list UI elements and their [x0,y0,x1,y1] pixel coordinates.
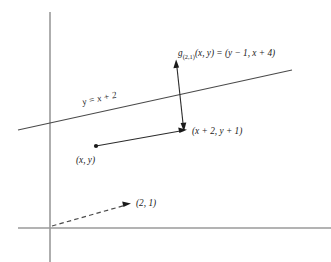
function-label-args: (x, y) = (y − 1, x + 4) [195,48,275,59]
reflection-arrowhead-top [173,60,179,69]
translated-point-label: (x + 2, y + 1) [192,126,242,137]
translation-vector [96,131,183,147]
source-point-dot [94,144,98,148]
dashed-translation-vector [52,205,126,226]
translation-vector-label: (2, 1) [136,198,156,209]
translation-vector-arrowhead [178,128,187,133]
function-label: g(2,1)(x, y) = (y − 1, x + 4) [178,48,275,61]
function-label-subscript: (2,1) [183,53,195,61]
dashed-vector-arrowhead [122,202,131,207]
diagram-canvas: g(2,1)(x, y) = (y − 1, x + 4) y = x + 2 … [0,0,331,262]
line-equation-label: y = x + 2 [80,90,117,108]
line-y-equals-x-plus-2 [18,70,292,130]
math-diagram: g(2,1)(x, y) = (y − 1, x + 4) y = x + 2 … [0,0,331,262]
source-point-label: (x, y) [76,155,95,166]
